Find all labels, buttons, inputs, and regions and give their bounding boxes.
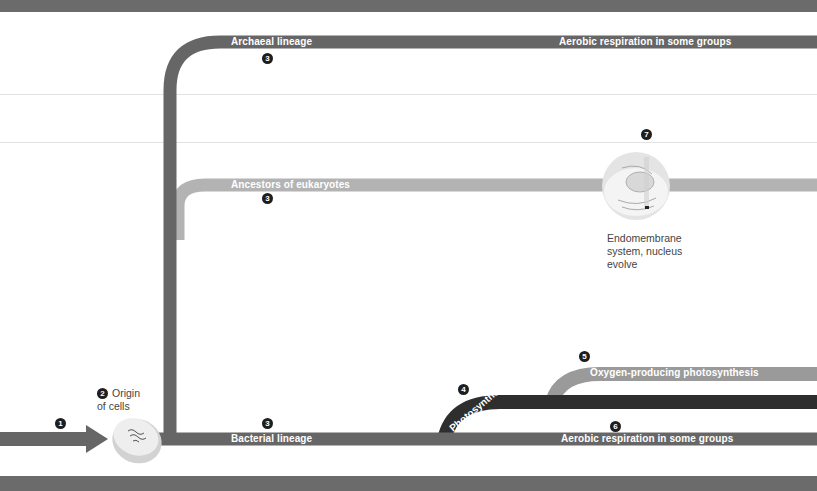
bottom-border-band: [0, 476, 817, 491]
marker-2-origin: 2: [97, 388, 108, 399]
eukaryote-ancestors-label: Ancestors of eukaryotes: [231, 179, 350, 191]
nucleus-caption-line1: Endomembrane: [607, 232, 682, 245]
eukaryote-ancestor-path: [178, 185, 817, 240]
start-arrow-shaft: [0, 432, 92, 446]
marker-7-nucleus: 7: [641, 129, 652, 140]
oxygen-photosynthesis-label: Oxygen-producing photosynthesis: [590, 367, 759, 379]
nucleus-caption-line2: system, nucleus: [607, 245, 682, 258]
origin-cell-icon: [106, 412, 168, 470]
eukaryote-cell-icon: [602, 152, 670, 220]
archaeal-lineage-label: Archaeal lineage: [231, 36, 312, 48]
marker-4-photosynthesis: 4: [458, 384, 469, 395]
archaeal-trait-label: Aerobic respiration in some groups: [559, 36, 731, 48]
marker-3-archaeal: 3: [262, 53, 273, 64]
marker-3-bacterial: 3: [262, 418, 273, 429]
lineage-diagram: Photosynthesis: [0, 0, 817, 491]
marker-5-oxygen: 5: [579, 351, 590, 362]
origin-caption-line1: Origin: [112, 387, 140, 400]
marker-6-respiration: 6: [610, 421, 621, 432]
marker-3-eukaryote: 3: [262, 193, 273, 204]
nucleus-caption-line3: evolve: [607, 258, 637, 271]
start-arrow-head: [86, 425, 108, 453]
marker-1-start: 1: [55, 418, 66, 429]
bacterial-trait-label: Aerobic respiration in some groups: [561, 433, 733, 445]
origin-caption-line2: of cells: [97, 400, 130, 413]
bacterial-lineage-label: Bacterial lineage: [231, 433, 312, 445]
